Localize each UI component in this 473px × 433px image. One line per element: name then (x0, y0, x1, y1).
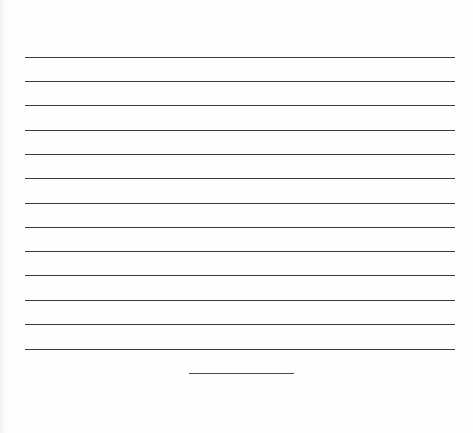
writing-line (25, 130, 455, 131)
writing-line (25, 105, 455, 106)
writing-line (25, 57, 455, 58)
writing-line (25, 178, 455, 179)
writing-line (25, 227, 455, 228)
writing-line (25, 251, 455, 252)
lined-sheet (0, 0, 473, 433)
writing-line (25, 349, 455, 350)
page-edge-shadow (0, 0, 6, 433)
writing-line (25, 324, 455, 325)
writing-line (25, 81, 455, 82)
writing-line (25, 203, 455, 204)
writing-line (25, 154, 455, 155)
writing-line (25, 275, 455, 276)
writing-line (25, 300, 455, 301)
signature-line (189, 373, 294, 374)
